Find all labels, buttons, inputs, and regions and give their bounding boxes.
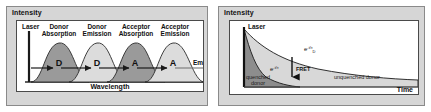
exponent-unquenched: e-t/τD <box>304 45 315 55</box>
left-intensity-axis-label: Intensity <box>12 9 42 16</box>
peak-glyph-2: D <box>94 58 101 68</box>
right-laser-label: Laser <box>248 23 266 30</box>
right-intensity-axis-label: Intensity <box>224 9 254 16</box>
band-label-acceptor-emission-line2: Emission <box>161 30 190 37</box>
left-laser-label: Laser <box>22 23 40 30</box>
band-label-donor-emission-line2: Emission <box>83 30 112 37</box>
unquenched-donor-label: unquenched donor <box>334 74 380 80</box>
band-label-acceptor-absorption-line2: Absorption <box>119 30 154 38</box>
fret-label: FRET <box>296 66 311 72</box>
fret-principle-figure: Intensity <box>0 0 431 112</box>
time-axis-label: Time <box>397 86 413 93</box>
right-plot-area: Laser e-t/τD e-t/τ FRET quenched donor u… <box>229 20 419 95</box>
peak-glyph-1: D <box>56 58 63 68</box>
peak-glyph-3: A <box>132 58 139 68</box>
wavelength-axis-label: Wavelength <box>17 83 203 90</box>
quenched-donor-label-line2: donor <box>251 80 265 86</box>
peak-glyph-4: A <box>170 58 177 68</box>
exponent-unquenched-sub: D <box>312 49 315 54</box>
spectra-graphic: Laser Donor Absorption Donor Emission Ac… <box>17 21 203 91</box>
decay-graphic: Laser e-t/τD e-t/τ FRET quenched donor u… <box>230 21 418 94</box>
band-label-donor-emission-line1: Donor <box>87 23 107 30</box>
lifetime-decay-panel: Intensity Laser <box>218 6 425 106</box>
left-plot-area: Laser Donor Absorption Donor Emission Ac… <box>16 20 204 92</box>
trailing-emission-label: Emission <box>193 59 203 66</box>
band-label-donor-absorption-line2: Absorption <box>42 30 77 38</box>
exponent-quenched-sup: -t/τ <box>273 65 279 70</box>
spectral-overlap-panel: Intensity <box>6 6 208 106</box>
band-label-donor-absorption-line1: Donor <box>49 23 69 30</box>
